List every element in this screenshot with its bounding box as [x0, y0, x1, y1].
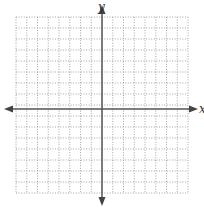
y-axis-label: y	[97, 0, 105, 14]
y-axis	[99, 5, 106, 206]
x-axis-left-arrow-icon	[4, 106, 13, 113]
y-axis-down-arrow-icon	[99, 197, 106, 206]
x-axis	[4, 106, 198, 113]
x-axis-label: x	[199, 102, 204, 116]
x-axis-right-arrow-icon	[189, 106, 198, 113]
coordinate-plane: y x	[0, 0, 204, 208]
